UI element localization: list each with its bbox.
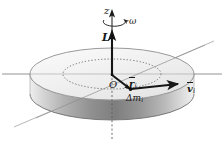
label-axis-z: z xyxy=(104,6,109,16)
physics-diagram-rotating-disk: z ω L O ri vi Δmi xyxy=(0,0,224,153)
velocity-vector-overbar xyxy=(187,82,193,83)
label-angular-momentum-L: L xyxy=(102,32,110,43)
origin-point xyxy=(111,73,114,76)
label-mass-element-delta-mi: Δmi xyxy=(126,94,143,103)
label-angular-velocity-omega: ω xyxy=(129,17,136,26)
label-radius-vector-subscript: i xyxy=(135,82,137,90)
label-velocity-vector-base: v xyxy=(187,83,193,94)
label-origin-O: O xyxy=(109,80,117,90)
label-mass-element-base: Δm xyxy=(126,93,141,103)
label-radius-vector-base: r xyxy=(129,78,134,89)
omega-rotation-arrow xyxy=(103,20,125,27)
label-mass-element-subscript: i xyxy=(141,96,143,103)
diagram-canvas xyxy=(0,0,224,153)
label-radius-vector-ri: ri xyxy=(129,79,137,90)
radius-vector-overbar xyxy=(129,77,135,78)
label-velocity-vector-subscript: i xyxy=(193,87,195,95)
label-velocity-vector-vi: vi xyxy=(187,84,195,95)
